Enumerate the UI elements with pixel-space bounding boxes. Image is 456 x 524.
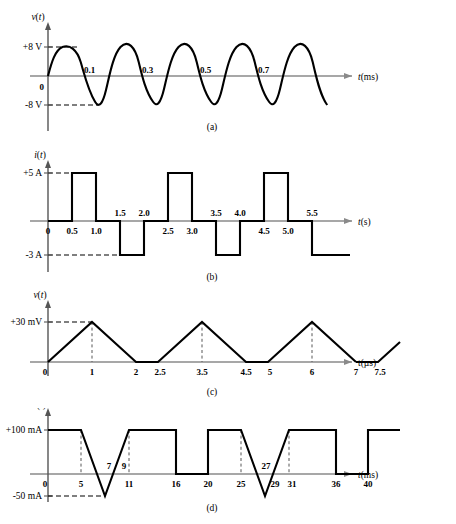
tick-label-a-0: 0.1: [84, 65, 96, 75]
tick-label-c-8: 7.5: [374, 367, 386, 377]
x-axis-label-b: t(s): [358, 217, 371, 228]
tick-label-d-above-2: 27: [262, 461, 272, 471]
origin-label-b: 0: [46, 226, 51, 236]
tick-label-d-below-4: 25: [237, 479, 247, 489]
tick-label-b-below-0: 0.5: [66, 226, 78, 236]
tick-label-b-below-3: 3.0: [186, 226, 198, 236]
panel-d: i(t) +100 mA -50 mA 0 5 11 16 20 25 29 3…: [0, 408, 456, 524]
panel-c: v(t) +30 mV 0 1 2 2.5 3.5 4.5 5 6 7 7.5 …: [0, 290, 456, 408]
tick-label-d-above-0: 7: [107, 461, 112, 471]
tick-label-c-3: 3.5: [196, 367, 208, 377]
panel-b-plot: i(t) +5 A -3 A 0 0.5 1.0 2.5 3.0 4.5 5.0…: [0, 140, 456, 290]
origin-label-a: 0: [40, 82, 45, 92]
value-label-d-neg: -50 mA: [13, 491, 42, 501]
panel-caption-d: (d): [206, 503, 217, 514]
y-axis-arrow-b: [45, 160, 51, 168]
tick-label-d-below-1: 11: [125, 479, 134, 489]
panel-a: v(t) +8 V -8 V 0 0.1 0.3 0.5 0.7 t(ms) (…: [0, 0, 456, 140]
tick-label-d-below-8: 40: [364, 479, 374, 489]
tick-label-c-1: 2: [134, 367, 139, 377]
tick-label-c-4: 4.5: [240, 367, 252, 377]
panel-b: i(t) +5 A -3 A 0 0.5 1.0 2.5 3.0 4.5 5.0…: [0, 140, 456, 290]
y-axis-label-b: i(t): [34, 150, 46, 161]
y-axis-label-a: v(t): [31, 12, 44, 23]
panel-caption-c: (c): [207, 387, 218, 398]
value-label-a-pos: +8 V: [23, 42, 42, 52]
tick-label-b-above-4: 5.5: [306, 208, 318, 218]
tick-label-d-below-3: 20: [204, 479, 214, 489]
tick-label-b-below-4: 4.5: [258, 226, 270, 236]
value-label-c-pos: +30 mV: [11, 317, 43, 327]
x-axis-label-d: t(ms): [358, 470, 378, 481]
x-axis-arrow-b: [344, 218, 352, 224]
panel-d-plot: i(t) +100 mA -50 mA 0 5 11 16 20 25 29 3…: [0, 408, 456, 524]
tick-label-d-below-7: 36: [332, 479, 342, 489]
x-axis-label-a: t(ms): [358, 72, 378, 83]
value-label-b-neg: -3 A: [25, 250, 42, 260]
waveform-b-pulse: [48, 173, 350, 255]
tick-label-b-below-1: 1.0: [90, 226, 102, 236]
tick-label-a-2: 0.5: [200, 65, 212, 75]
y-axis-arrow-d: [45, 408, 51, 416]
tick-label-b-above-3: 4.0: [234, 208, 246, 218]
value-label-d-pos: +100 mA: [6, 425, 42, 435]
value-label-a-neg: -8 V: [25, 100, 42, 110]
origin-label-d: 0: [43, 479, 48, 489]
tick-label-a-1: 0.3: [142, 65, 154, 75]
tick-label-d-below-5: 29: [271, 479, 281, 489]
tick-label-c-2: 2.5: [154, 367, 166, 377]
tick-label-c-0: 1: [90, 367, 95, 377]
tick-label-b-above-2: 3.5: [210, 208, 222, 218]
tick-label-a-3: 0.7: [258, 65, 270, 75]
y-axis-label-c: v(t): [33, 290, 46, 301]
tick-label-c-7: 7: [354, 367, 359, 377]
tick-label-d-below-0: 5: [79, 479, 84, 489]
panel-a-plot: v(t) +8 V -8 V 0 0.1 0.3 0.5 0.7 t(ms) (…: [0, 0, 456, 140]
tick-label-b-below-5: 5.0: [282, 226, 294, 236]
panel-caption-a: (a): [207, 122, 218, 133]
waveform-figure-sheet: v(t) +8 V -8 V 0 0.1 0.3 0.5 0.7 t(ms) (…: [0, 0, 456, 524]
x-axis-arrow-c: [344, 359, 352, 365]
value-label-b-pos: +5 A: [23, 168, 42, 178]
panel-c-plot: v(t) +30 mV 0 1 2 2.5 3.5 4.5 5 6 7 7.5 …: [0, 290, 456, 408]
tick-label-c-5: 5: [268, 367, 273, 377]
tick-label-c-6: 6: [310, 367, 315, 377]
tick-label-b-above-0: 1.5: [114, 208, 126, 218]
x-axis-label-c: t(µs): [358, 358, 376, 369]
panel-caption-b: (b): [206, 272, 217, 283]
tick-label-d-above-1: 9: [122, 461, 127, 471]
origin-label-c: 0: [43, 367, 48, 377]
waveform-d-mixed: [48, 430, 400, 496]
y-axis-label-d: i(t): [34, 408, 46, 411]
tick-label-d-below-2: 16: [172, 479, 182, 489]
x-axis-arrow-a: [344, 73, 352, 79]
tick-label-d-below-6: 31: [288, 479, 298, 489]
tick-label-b-above-1: 2.0: [138, 208, 150, 218]
y-axis-arrow-a: [45, 22, 51, 30]
y-axis-arrow-c: [45, 300, 51, 308]
tick-label-b-below-2: 2.5: [162, 226, 174, 236]
